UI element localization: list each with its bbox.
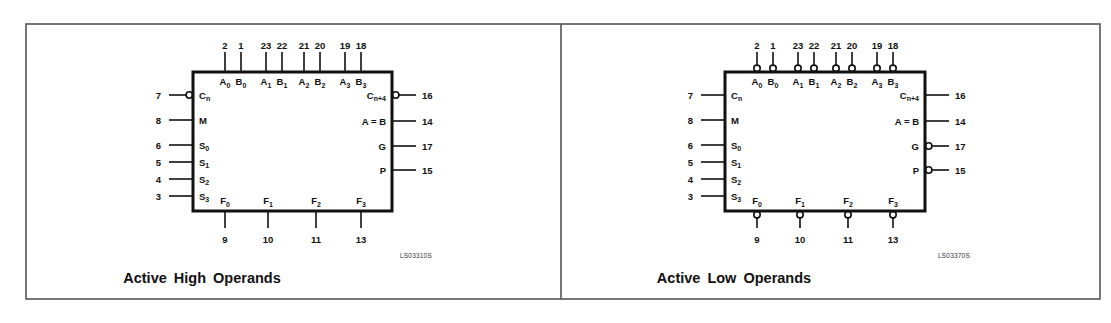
pin-number: 3 — [156, 191, 161, 202]
pin-top-19: 19A3 — [340, 40, 351, 89]
pin-top-20: 20B2 — [315, 40, 326, 89]
pin-number: 5 — [156, 157, 162, 168]
pin-number: 11 — [843, 234, 854, 245]
signal-label: Cn — [199, 90, 210, 103]
signal-label: Cn+4 — [900, 90, 919, 103]
signal-label: A0 — [752, 76, 763, 89]
drawing-code: LS03370S — [938, 252, 970, 259]
pin-left-3: 3S3 — [156, 191, 210, 204]
pin-right-17: 17G — [379, 141, 433, 152]
pin-left-4: 4S2 — [688, 174, 742, 187]
panel-active-high: 2A01B023A122B121A220B219A318B37Cn8M6S05S… — [123, 40, 433, 286]
pin-bottom-11: 11F2 — [843, 195, 854, 245]
pin-bottom-10: 10F1 — [795, 195, 806, 245]
signal-label: A3 — [340, 76, 351, 89]
pin-top-22: 22B1 — [277, 40, 288, 89]
pin-number: 9 — [754, 234, 759, 245]
pin-number: 13 — [356, 234, 367, 245]
pin-number: 20 — [847, 40, 858, 51]
pin-number: 7 — [156, 90, 161, 101]
signal-label: B2 — [847, 76, 858, 89]
signal-label: A0 — [220, 76, 231, 89]
pin-top-20: 20B2 — [847, 40, 858, 89]
pin-bottom-9: 9F0 — [752, 195, 762, 245]
pin-number: 19 — [872, 40, 883, 51]
pin-number: 2 — [754, 40, 759, 51]
pin-number: 4 — [156, 174, 162, 185]
signal-label: Cn+4 — [367, 90, 386, 103]
signal-label: G — [379, 141, 386, 152]
pin-top-2: 2A0 — [220, 40, 231, 89]
pin-bottom-13: 13F3 — [888, 195, 899, 245]
panel-active-low: 2A01B023A122B121A220B219A318B37Cn8M6S05S… — [657, 40, 971, 286]
pin-number: 8 — [688, 115, 693, 126]
signal-label: S2 — [731, 174, 741, 187]
signal-label: F0 — [220, 195, 230, 208]
pin-number: 22 — [277, 40, 288, 51]
signal-label: B1 — [809, 76, 820, 89]
pin-number: 17 — [955, 141, 966, 152]
pin-right-17: 17G — [912, 141, 966, 152]
pin-number: 14 — [955, 116, 966, 127]
chip-body — [725, 72, 925, 211]
signal-label: Cn — [731, 90, 742, 103]
pin-top-22: 22B1 — [809, 40, 820, 89]
pin-number: 4 — [688, 174, 694, 185]
pin-right-16: 16Cn+4 — [900, 90, 966, 103]
signal-label: A1 — [261, 76, 272, 89]
pin-number: 15 — [422, 165, 433, 176]
signal-label: B3 — [356, 76, 367, 89]
pin-number: 10 — [263, 234, 274, 245]
pin-number: 22 — [809, 40, 820, 51]
pin-left-7: 7Cn — [156, 90, 210, 103]
signal-label: S2 — [199, 174, 209, 187]
signal-label: B2 — [315, 76, 326, 89]
pin-top-19: 19A3 — [872, 40, 883, 89]
pin-top-21: 21A2 — [299, 40, 310, 89]
pin-number: 6 — [156, 140, 161, 151]
pin-right-14: 14A = B — [895, 116, 966, 127]
pin-top-1: 1B0 — [768, 40, 779, 89]
signal-label: A = B — [362, 116, 386, 127]
pin-left-3: 3S3 — [688, 191, 742, 204]
signal-label: A2 — [299, 76, 310, 89]
pin-left-5: 5S1 — [156, 157, 210, 170]
drawing-code: LS03310S — [400, 252, 432, 259]
pin-number: 9 — [222, 234, 227, 245]
panel-caption: Active High Operands — [123, 270, 280, 286]
chip-body — [193, 72, 392, 211]
signal-label: S1 — [199, 157, 209, 170]
pin-top-2: 2A0 — [752, 40, 763, 89]
pin-number: 11 — [311, 234, 322, 245]
pin-number: 6 — [688, 140, 693, 151]
signal-label: S3 — [731, 191, 741, 204]
signal-label: S0 — [731, 140, 741, 153]
pin-top-18: 18B3 — [356, 40, 367, 89]
pin-right-14: 14A = B — [362, 116, 433, 127]
pin-number: 8 — [156, 115, 161, 126]
signal-label: A3 — [872, 76, 883, 89]
pin-number: 23 — [793, 40, 804, 51]
signal-label: P — [913, 165, 920, 176]
pin-number: 23 — [261, 40, 272, 51]
pin-left-6: 6S0 — [156, 140, 210, 153]
pin-number: 20 — [315, 40, 326, 51]
pin-number: 1 — [238, 40, 244, 51]
pin-left-8: 8M — [688, 115, 739, 126]
pin-left-6: 6S0 — [688, 140, 742, 153]
signal-label: F3 — [888, 195, 898, 208]
pin-bottom-13: 13F3 — [356, 195, 367, 245]
signal-label: B0 — [236, 76, 247, 89]
pin-number: 14 — [422, 116, 433, 127]
pin-number: 18 — [888, 40, 899, 51]
signal-label: F1 — [795, 195, 805, 208]
pin-number: 13 — [888, 234, 899, 245]
pin-top-21: 21A2 — [831, 40, 842, 89]
signal-label: S1 — [731, 157, 741, 170]
logic-symbol-diagram: 2A01B023A122B121A220B219A318B37Cn8M6S05S… — [0, 0, 1111, 323]
signal-label: S0 — [199, 140, 209, 153]
pin-left-4: 4S2 — [156, 174, 210, 187]
signal-label: F1 — [263, 195, 273, 208]
signal-label: M — [731, 115, 739, 126]
signal-label: B1 — [277, 76, 288, 89]
